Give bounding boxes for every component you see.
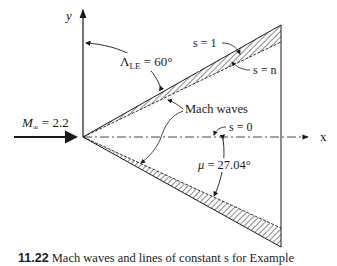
figure-number: 11.22 — [18, 251, 49, 265]
mach-waves-label: Mach waves — [185, 102, 248, 116]
s0-label: s = 0 — [229, 120, 252, 134]
mach-angle-label: μ = 27.04° — [197, 158, 251, 172]
x-axis-label: x — [320, 129, 327, 144]
mach-waves-leader-upper — [168, 100, 183, 109]
s1-label: s = 1 — [193, 36, 216, 50]
s0-leader — [214, 127, 226, 135]
lower-mach-wave — [83, 137, 281, 228]
sweep-angle-label: ΛLE = 60° — [120, 54, 172, 71]
freestream-label: M∞ = 2.2 — [21, 115, 69, 132]
y-axis-label: y — [64, 8, 72, 23]
caption-text: Mach waves and lines of constant s for E… — [49, 251, 294, 265]
sn-label: s = n — [253, 63, 276, 77]
figure-caption: 11.22 Mach waves and lines of constant s… — [18, 251, 337, 266]
lower-leading-edge — [83, 137, 281, 247]
